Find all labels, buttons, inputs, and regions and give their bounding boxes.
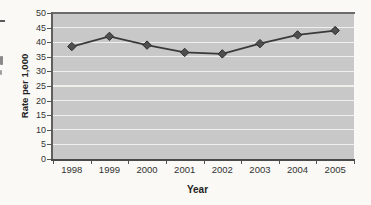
y-tick-mark	[47, 13, 51, 14]
x-tick-mark	[354, 161, 355, 164]
x-tick-label: 2001	[166, 164, 204, 175]
y-tick-mark	[47, 130, 51, 131]
x-tick-label: 2002	[204, 164, 242, 175]
x-tick-label: 2004	[279, 164, 317, 175]
x-tick-mark	[166, 161, 167, 164]
x-axis-title: Year	[40, 184, 355, 195]
data-point-marker	[256, 39, 264, 47]
scanned-page: 05101520253035404550 1998199920002001200…	[0, 0, 371, 205]
y-tick-label: 50	[0, 8, 46, 18]
y-tick-label: 10	[0, 125, 46, 135]
y-tick-label: 0	[0, 154, 46, 164]
y-tick-mark	[47, 101, 51, 102]
y-tick-label: 40	[0, 37, 46, 47]
x-axis-line	[51, 159, 355, 161]
x-tick-label: 1999	[91, 164, 129, 175]
x-tick-mark	[204, 161, 205, 164]
y-tick-mark	[47, 57, 51, 58]
y-axis-line	[51, 12, 53, 161]
x-tick-label: 2005	[316, 164, 354, 175]
gridlines	[53, 28, 354, 145]
plot-top-border	[52, 12, 355, 14]
y-tick-mark	[47, 42, 51, 43]
x-tick-mark	[128, 161, 129, 164]
x-tick-mark	[241, 161, 242, 164]
x-tick-label: 2003	[241, 164, 279, 175]
y-tick-mark	[47, 115, 51, 116]
x-tick-mark	[91, 161, 92, 164]
data-point-marker	[105, 32, 113, 40]
data-point-marker	[68, 42, 76, 50]
x-tick-mark	[316, 161, 317, 164]
x-tick-label: 2000	[128, 164, 166, 175]
data-point-marker	[293, 31, 301, 39]
x-tick-mark	[53, 161, 54, 164]
y-tick-mark	[47, 159, 51, 160]
y-tick-mark	[47, 28, 51, 29]
y-tick-label: 45	[0, 23, 46, 33]
x-tick-mark	[279, 161, 280, 164]
y-tick-mark	[47, 71, 51, 72]
data-point-marker	[180, 48, 188, 56]
y-tick-mark	[47, 86, 51, 87]
y-tick-mark	[47, 144, 51, 145]
y-tick-label: 5	[0, 139, 46, 149]
x-tick-label: 1998	[53, 164, 91, 175]
y-axis-title: Rate per 1,000	[19, 54, 30, 118]
